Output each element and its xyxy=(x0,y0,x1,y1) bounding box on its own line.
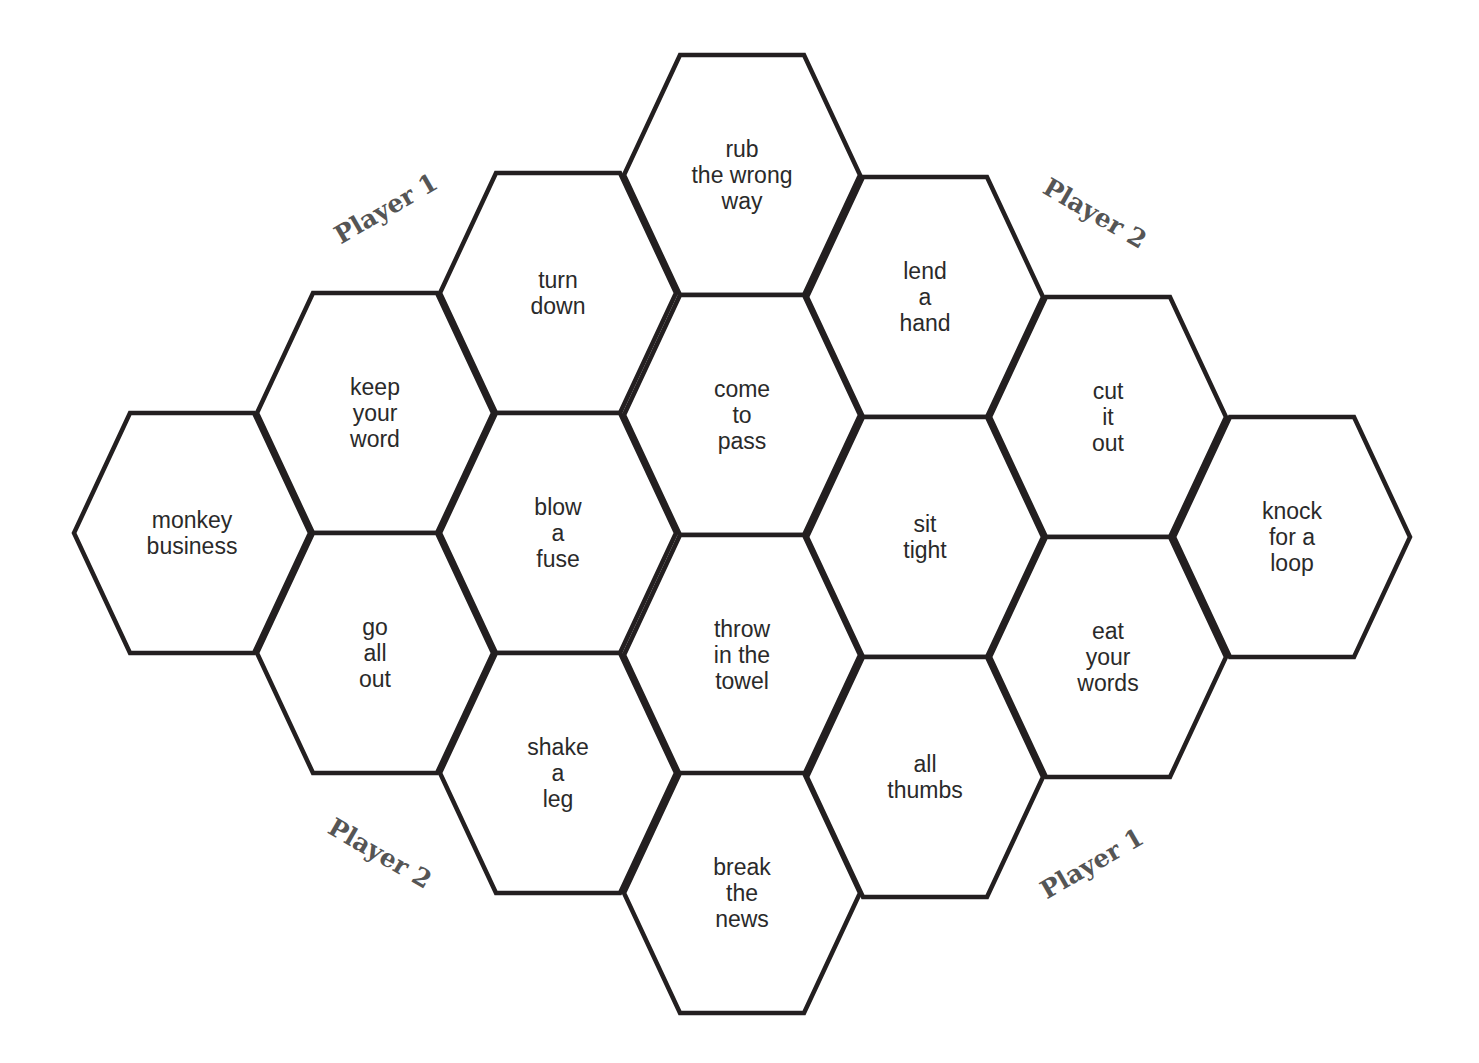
hex-cell-text: out xyxy=(1092,430,1124,456)
hex-cell-text: lend xyxy=(903,258,946,284)
hex-cell-text: in the xyxy=(714,642,770,668)
hex-cell-text: keep xyxy=(350,374,400,400)
hex-cell-text: shake xyxy=(527,734,588,760)
hex-cell[interactable]: lendahand xyxy=(825,237,1025,357)
hex-cell-text: fuse xyxy=(536,546,579,572)
hex-cell-text: rub xyxy=(725,136,758,162)
hex-cell[interactable]: monkeybusiness xyxy=(92,473,292,593)
hex-cell-text: loop xyxy=(1270,550,1313,576)
hex-cell[interactable]: goallout xyxy=(275,593,475,713)
hex-cell-text: the xyxy=(726,880,758,906)
hex-cell[interactable]: cutitout xyxy=(1008,357,1208,477)
hex-cell-text: a xyxy=(552,520,565,546)
hex-cell-text: turn xyxy=(538,267,578,293)
hex-cell-text: sit xyxy=(914,511,937,537)
hex-cell-text: way xyxy=(722,188,763,214)
hex-cell-text: the wrong xyxy=(691,162,792,188)
hex-cell-text: knock xyxy=(1262,498,1322,524)
hex-cell[interactable]: sittight xyxy=(825,477,1025,597)
hex-cell[interactable]: shakealeg xyxy=(458,713,658,833)
hex-cell-text: down xyxy=(531,293,586,319)
hex-cell-text: eat xyxy=(1092,618,1124,644)
hex-cell-text: monkey xyxy=(152,507,233,533)
hex-cell-text: business xyxy=(147,533,238,559)
hex-cell-text: all xyxy=(363,640,386,666)
hex-cell-text: hand xyxy=(899,310,950,336)
hex-cell-text: blow xyxy=(534,494,581,520)
hex-cell-text: a xyxy=(919,284,932,310)
hex-cell-text: your xyxy=(1086,644,1131,670)
hex-cell[interactable]: cometopass xyxy=(642,355,842,475)
hex-cell-text: towel xyxy=(715,668,769,694)
hex-cell[interactable]: turndown xyxy=(458,233,658,353)
hex-cell-text: to xyxy=(732,402,751,428)
hex-cell-text: word xyxy=(350,426,400,452)
hex-cell[interactable]: eatyourwords xyxy=(1008,597,1208,717)
hex-cell-text: break xyxy=(713,854,771,880)
hex-cell-text: out xyxy=(359,666,391,692)
hex-cell[interactable]: blowafuse xyxy=(458,473,658,593)
hex-cell[interactable]: throwin thetowel xyxy=(642,595,842,715)
hex-cell[interactable]: keepyourword xyxy=(275,353,475,473)
hex-cell-text: thumbs xyxy=(887,777,962,803)
hex-cell-text: a xyxy=(552,760,565,786)
hex-cell[interactable]: knockfor aloop xyxy=(1192,477,1392,597)
hex-cell-text: your xyxy=(353,400,398,426)
hex-cell-text: for a xyxy=(1269,524,1315,550)
hex-cell-text: cut xyxy=(1093,378,1124,404)
hex-cell[interactable]: breakthenews xyxy=(642,833,842,953)
hex-cell-text: throw xyxy=(714,616,770,642)
hex-cell[interactable]: allthumbs xyxy=(825,717,1025,837)
hex-cell-text: leg xyxy=(543,786,574,812)
hex-cell-text: go xyxy=(362,614,388,640)
hex-cell-text: all xyxy=(913,751,936,777)
hex-cell-text: pass xyxy=(718,428,767,454)
hex-cell-text: it xyxy=(1102,404,1114,430)
hex-cell-text: come xyxy=(714,376,770,402)
hex-cell-text: words xyxy=(1077,670,1138,696)
hex-cell[interactable]: rubthe wrongway xyxy=(642,115,842,235)
hex-cell-text: tight xyxy=(903,537,946,563)
hex-cell-text: news xyxy=(715,906,769,932)
